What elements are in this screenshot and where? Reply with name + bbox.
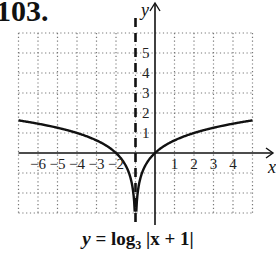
y-tick-label: 2 xyxy=(142,105,150,121)
chart: yx −6−5−4−3−2123412345 xyxy=(0,0,276,225)
y-tick-label: 3 xyxy=(142,85,150,101)
x-tick-label: 1 xyxy=(171,156,179,172)
caption-equals: = log xyxy=(91,228,136,249)
x-tick-label: −6 xyxy=(30,156,46,172)
caption-y: y xyxy=(82,228,90,249)
y-tick-label: 1 xyxy=(142,125,150,141)
x-tick-label: −5 xyxy=(50,156,66,172)
y-tick-label: 5 xyxy=(142,45,150,61)
x-tick-label: −3 xyxy=(89,156,105,172)
x-axis-label: x xyxy=(267,157,276,177)
x-tick-label: −2 xyxy=(108,156,124,172)
chart-caption: y = log3 |x + 1| xyxy=(0,228,276,253)
x-tick-label: 2 xyxy=(190,156,198,172)
x-tick-label: 4 xyxy=(229,156,237,172)
x-tick-label: 3 xyxy=(210,156,218,172)
y-axis-label: y xyxy=(139,0,149,20)
y-tick-label: 4 xyxy=(142,65,150,81)
x-tick-label: −4 xyxy=(69,156,85,172)
caption-arg: |x + 1| xyxy=(141,228,193,249)
